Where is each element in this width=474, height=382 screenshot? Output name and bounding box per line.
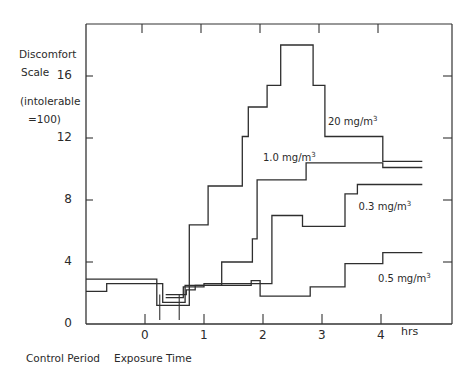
annotation-superscript: 3 <box>373 115 377 123</box>
series-annotation: 0.5 mg/m3 <box>378 272 431 284</box>
y-tick-label: 8 <box>64 192 72 206</box>
series-annotation: 1.0 mg/m3 <box>263 151 316 163</box>
annotation-text: 1.0 mg/m <box>263 152 311 163</box>
series-line-1 <box>86 163 422 302</box>
x-tick-label: 0 <box>141 328 149 342</box>
series-annotation: 20 mg/m3 <box>328 115 378 127</box>
y-axis-label-line-1: Discomfort <box>19 48 76 60</box>
y-tick-label: 12 <box>57 130 72 144</box>
y-tick-label: 16 <box>57 68 72 82</box>
x-tick-label: 1 <box>200 328 208 342</box>
x-tick-label: 2 <box>259 328 267 342</box>
annotation-superscript: 3 <box>426 272 430 280</box>
annotation-superscript: 3 <box>311 151 315 159</box>
x-axis-label-control-period: Control Period <box>26 352 100 364</box>
series-group <box>86 45 422 305</box>
annotation-text: 20 mg/m <box>328 116 373 127</box>
x-tick-label: 4 <box>377 328 385 342</box>
y-tick-label: 0 <box>64 316 72 330</box>
series-line-0 <box>86 45 422 305</box>
y-tick-label: 4 <box>64 254 72 268</box>
y-axis-label-line-4: =100) <box>28 113 61 125</box>
x-axis-unit-label: hrs <box>401 325 418 338</box>
annotation-text: 0.3 mg/m <box>359 202 407 213</box>
x-tick-label: 3 <box>318 328 326 342</box>
series-annotation: 0.3 mg/m3 <box>359 200 412 212</box>
x-axis-label-exposure-time: Exposure Time <box>114 352 192 364</box>
y-axis-label-line-3: (intolerable <box>20 95 80 107</box>
annotation-superscript: 3 <box>407 200 411 208</box>
y-axis-label-line-2: Scale <box>21 66 49 78</box>
annotation-text: 0.5 mg/m <box>378 273 426 284</box>
